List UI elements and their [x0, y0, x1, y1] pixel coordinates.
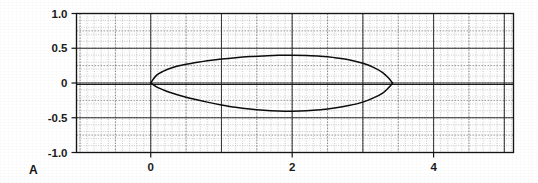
panel-label: A [29, 163, 38, 177]
plot-svg: 1.00.50-0.5-1.0 024 A [0, 0, 538, 183]
x-tick-label-2: 4 [430, 161, 437, 173]
figure-panel: 1.00.50-0.5-1.0 024 A [0, 0, 538, 183]
y-tick-label-0: 1.0 [52, 8, 68, 20]
y-tick-label-3: -0.5 [48, 112, 68, 124]
y-tick-marks [72, 14, 77, 153]
x-tick-labels: 024 [148, 161, 438, 173]
x-tick-label-0: 0 [148, 161, 154, 173]
y-tick-label-1: 0.5 [52, 42, 69, 54]
x-tick-label-1: 2 [289, 161, 295, 173]
y-tick-labels: 1.00.50-0.5-1.0 [48, 8, 68, 159]
x-tick-marks [151, 153, 434, 158]
y-tick-label-4: -1.0 [48, 147, 68, 159]
y-tick-label-2: 0 [61, 77, 67, 89]
